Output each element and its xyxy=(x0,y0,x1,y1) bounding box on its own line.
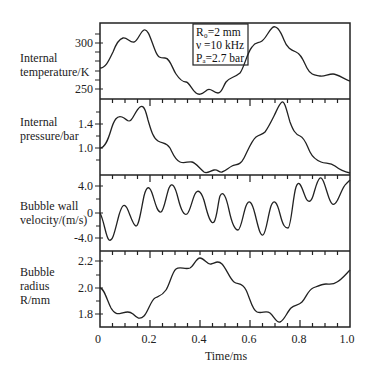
y-tick-label: 250 xyxy=(75,82,93,96)
x-tick-marks xyxy=(113,99,338,327)
y-tick-label: 1.0 xyxy=(78,141,93,155)
x-tick-label: 0.6 xyxy=(242,332,257,346)
y-tick-label: 0 xyxy=(87,206,93,220)
panel-label-velocity: Bubble wall velocity/(m/s) xyxy=(20,199,87,227)
y-tick-label: 2.0 xyxy=(78,281,93,295)
pressure-curve xyxy=(100,102,350,173)
multi-panel-chart: 300 250 1.4 1.0 4.0 0 -4.0 2.2 2.0 1.8 0… xyxy=(0,0,373,376)
y-tick-label: 2.2 xyxy=(78,254,93,268)
x-axis-label: Time/ms xyxy=(205,349,248,363)
radius-curve xyxy=(100,258,350,322)
annotation-radius: R₀=2 mm xyxy=(196,26,241,38)
annotation-pressure: Pₐ=2.7 bar xyxy=(196,52,244,64)
panel-label-temperature: Internal temperature/K xyxy=(20,51,90,79)
x-tick-label: 0 xyxy=(95,332,101,346)
y-tick-label: 1.4 xyxy=(78,117,93,131)
x-tick-label: 0.8 xyxy=(292,332,307,346)
y-tick-label: -4.0 xyxy=(74,231,93,245)
velocity-curve xyxy=(100,178,350,240)
annotation-frequency: ν =10 kHz xyxy=(196,39,244,51)
y-tick-label: 1.8 xyxy=(78,307,93,321)
panel-label-pressure: Internal pressure/bar xyxy=(20,115,79,143)
x-tick-label: 1.0 xyxy=(340,332,355,346)
panel-label-radius: Bubble radius R/mm xyxy=(20,265,58,307)
x-tick-label: 0.2 xyxy=(142,332,157,346)
y-tick-marks xyxy=(95,34,103,314)
x-tick-label: 0.4 xyxy=(192,332,207,346)
y-tick-label: 300 xyxy=(75,36,93,50)
y-tick-label: 4.0 xyxy=(78,179,93,193)
